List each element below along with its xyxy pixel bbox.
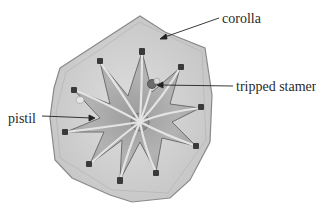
corolla-leader — [162, 18, 219, 38]
flower-diagram: corolla tripped stamen pistil — [0, 0, 316, 211]
corolla-label: corolla — [222, 12, 261, 26]
pistil-marker — [76, 97, 84, 104]
pistil-label: pistil — [8, 112, 36, 126]
flower-illustration — [0, 0, 316, 211]
tripped-stamen-label: tripped stamen — [236, 80, 316, 94]
